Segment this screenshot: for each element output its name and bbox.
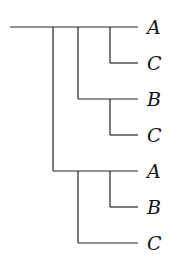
leaf-label: C: [147, 52, 162, 74]
leaf-label: B: [146, 196, 161, 218]
leaf-label: C: [147, 232, 162, 254]
leaf-label: C: [147, 124, 162, 146]
tree-diagram: A C B C A B C: [0, 0, 179, 263]
leaf-label: B: [146, 88, 161, 110]
leaf-label: A: [145, 16, 161, 38]
leaf-label: A: [145, 160, 161, 182]
